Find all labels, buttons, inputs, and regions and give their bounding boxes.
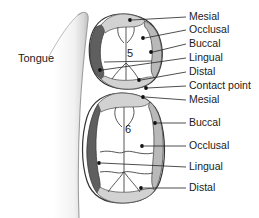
dental-diagram-figure: 5 [0, 0, 259, 218]
label-occlusal-6: Occlusal [189, 139, 229, 151]
dot-lingual-6 [97, 161, 101, 165]
dot-occlusal-5 [141, 36, 145, 40]
dot-mesial-6 [141, 95, 145, 99]
label-distal-5: Distal [189, 65, 215, 77]
label-buccal-5: Buccal [189, 37, 221, 49]
tooth-6-number: 6 [125, 123, 131, 135]
dot-buccal-5 [149, 50, 153, 54]
label-lingual-6: Lingual [189, 160, 223, 172]
tooth-6[interactable]: 6 [83, 93, 165, 203]
dot-occlusal-6 [140, 144, 144, 148]
label-contact-point: Contact point [189, 79, 251, 91]
tooth-5-number: 5 [127, 47, 133, 59]
label-mesial-6: Mesial [189, 93, 219, 105]
tongue-label: Tongue [18, 52, 54, 64]
label-mesial-5: Mesial [189, 10, 219, 22]
label-lingual-5: Lingual [189, 51, 223, 63]
dot-contact-point [144, 86, 148, 90]
dot-lingual-5 [98, 68, 102, 72]
dot-distal-6 [139, 186, 143, 190]
leader-contact-point [147, 86, 186, 88]
tongue-shape [10, 12, 88, 218]
dot-distal-5 [137, 78, 141, 82]
label-occlusal-5: Occlusal [189, 23, 229, 35]
label-distal-6: Distal [189, 181, 215, 193]
dot-mesial-5 [128, 18, 132, 22]
diagram-canvas: 5 [0, 0, 259, 218]
dot-buccal-6 [153, 121, 157, 125]
label-buccal-6: Buccal [189, 116, 221, 128]
leader-mesial-6 [145, 97, 186, 100]
